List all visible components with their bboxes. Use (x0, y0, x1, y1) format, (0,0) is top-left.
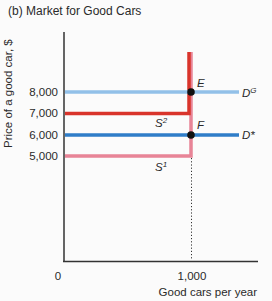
label-s1: S1 (155, 160, 167, 173)
chart-plot: 8,000 7,000 6,000 5,000 0 1,000 Good car… (0, 0, 272, 301)
supply-curve-s2 (65, 52, 189, 114)
x-tick-0: 0 (55, 270, 61, 282)
equilibrium-point-f (187, 131, 195, 139)
y-tick-8000: 8,000 (29, 86, 58, 98)
label-f: F (197, 119, 205, 131)
label-dstar: D* (242, 129, 255, 141)
y-tick-6000: 6,000 (29, 129, 58, 141)
equilibrium-point-e (187, 88, 195, 96)
y-tick-7000: 7,000 (29, 107, 58, 119)
x-tick-1000: 1,000 (178, 270, 207, 282)
y-tick-5000: 5,000 (29, 150, 58, 162)
label-s2: S2 (155, 116, 168, 129)
x-axis-label: Good cars per year (159, 286, 258, 298)
label-e: E (197, 77, 205, 89)
supply-curve-s1 (65, 52, 191, 156)
label-dg: DG (242, 86, 257, 99)
